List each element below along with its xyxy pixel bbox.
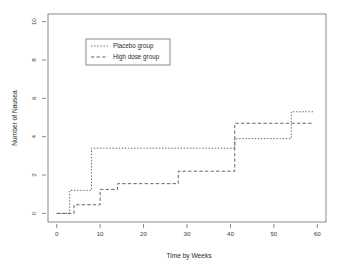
legend-label: High dose group xyxy=(113,53,160,61)
y-tick-label: 0 xyxy=(30,211,37,215)
y-tick-label: 6 xyxy=(30,96,37,100)
legend-label: Placebo group xyxy=(113,42,154,50)
y-tick-label: 8 xyxy=(30,58,37,62)
y-tick-label: 2 xyxy=(30,173,37,177)
y-axis-title: Number of Nausea xyxy=(11,90,18,146)
x-axis-title: Time by Weeks xyxy=(166,252,212,260)
series-lines xyxy=(57,112,313,214)
chart-legend: Placebo groupHigh dose group xyxy=(86,39,170,65)
x-tick-label: 20 xyxy=(140,230,147,237)
x-tick-label: 0 xyxy=(55,230,59,237)
y-axis-ticks: 0246810 xyxy=(30,18,46,215)
x-axis-ticks: 0102030405060 xyxy=(55,224,321,237)
y-tick-label: 4 xyxy=(30,134,37,138)
x-tick-label: 60 xyxy=(314,230,321,237)
x-tick-label: 40 xyxy=(227,230,234,237)
chart-container: 0102030405060 0246810 Placebo groupHigh … xyxy=(0,0,342,268)
x-tick-label: 10 xyxy=(97,230,104,237)
series-line-placebo xyxy=(57,112,313,214)
series-line-high-dose xyxy=(57,123,313,213)
nausea-step-chart: 0102030405060 0246810 Placebo groupHigh … xyxy=(0,0,342,268)
x-tick-label: 50 xyxy=(270,230,277,237)
y-tick-label: 10 xyxy=(30,18,37,25)
x-tick-label: 30 xyxy=(184,230,191,237)
